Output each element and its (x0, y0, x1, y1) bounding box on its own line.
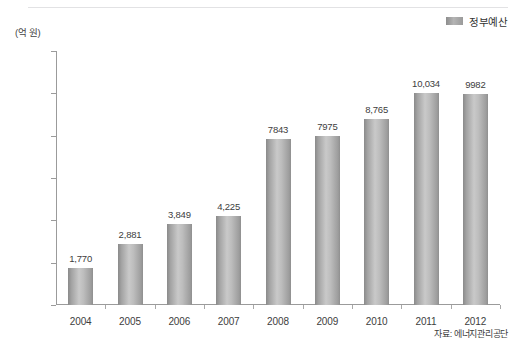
y-axis-tick (51, 305, 56, 306)
chart-page: { "legend": { "label": "정부예산", "swatch_c… (0, 0, 520, 346)
x-axis-category-label: 2011 (415, 316, 436, 327)
bar-value-label: 2,881 (119, 229, 142, 240)
x-axis-category-label: 2012 (464, 316, 486, 327)
bar-value-label: 8,765 (365, 104, 388, 115)
x-axis-category-label: 2010 (366, 316, 388, 327)
bar-value-label: 7843 (268, 124, 288, 135)
x-axis-tick (401, 305, 402, 309)
x-axis-tick (500, 305, 501, 309)
x-axis-category-label: 2005 (119, 316, 141, 327)
bar: 1,7702004 (68, 268, 93, 305)
bar: 79752009 (315, 136, 340, 305)
plot-area: 02,0004,0006,0008,00010,00012,000 1,7702… (56, 51, 500, 305)
bar: 8,7652010 (364, 119, 389, 305)
bar: 3,8492006 (167, 224, 192, 305)
bar-value-label: 10,034 (412, 78, 440, 89)
y-axis-tick (51, 220, 56, 221)
bar-value-label: 1,770 (69, 253, 92, 264)
y-axis-tick (51, 136, 56, 137)
y-axis-line (56, 51, 57, 305)
x-axis-tick (105, 305, 106, 309)
x-axis-category-label: 2006 (168, 316, 190, 327)
bar: 10,0342011 (414, 93, 439, 305)
bar: 2,8812005 (118, 244, 143, 305)
x-axis-tick (451, 305, 452, 309)
x-axis-tick (204, 305, 205, 309)
bar-value-label: 9982 (465, 79, 485, 90)
legend-label: 정부예산 (469, 14, 508, 29)
x-axis-category-label: 2004 (70, 316, 92, 327)
bar-value-label: 7975 (317, 121, 337, 132)
x-axis-tick (155, 305, 156, 309)
y-axis-tick (51, 93, 56, 94)
source-note: 자료: 에너지관리공단 (434, 327, 508, 340)
chart-legend: 정부예산 (446, 14, 508, 28)
top-divider (28, 7, 508, 8)
x-axis-category-label: 2008 (267, 316, 289, 327)
y-axis-tick (51, 263, 56, 264)
x-axis-tick (253, 305, 254, 309)
bar-value-label: 4,225 (217, 201, 240, 212)
bar: 78432008 (266, 139, 291, 305)
x-axis-tick (303, 305, 304, 309)
y-axis-tick (51, 178, 56, 179)
y-axis-unit-label: (억 원) (15, 25, 40, 39)
x-axis-tick (352, 305, 353, 309)
x-axis-category-label: 2009 (316, 316, 338, 327)
bar-value-label: 3,849 (168, 209, 191, 220)
legend-swatch-icon (446, 17, 463, 25)
bar: 4,2252007 (216, 216, 241, 305)
bar: 99822012 (463, 94, 488, 305)
y-axis-tick (51, 51, 56, 52)
x-axis-category-label: 2007 (218, 316, 240, 327)
